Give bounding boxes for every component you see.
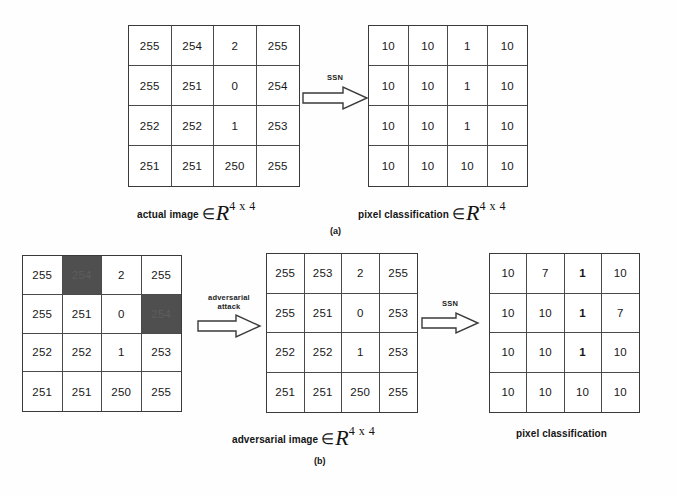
caption-a-pixel-classification: pixel classification ∈ R 4 x 4 <box>358 200 506 222</box>
matrix-cell-r3-c4: 253 <box>257 106 300 146</box>
caption-b-pixel-classification: pixel classification <box>516 428 607 439</box>
caption-a-right-symbol: R <box>466 202 479 224</box>
matrix-cell-r3-c4: 253 <box>380 333 418 373</box>
matrix-cell-r3-c4: 10 <box>602 333 639 373</box>
matrix-cell-r1-c1: 10 <box>490 254 527 294</box>
arrow-block-b-adversarial-attack: adversarial attack <box>190 294 268 339</box>
matrix-cell-r3-c1: 10 <box>490 333 527 373</box>
matrix-cell-r2-c2: 10 <box>527 294 564 334</box>
matrix-cell-r1-c2: 254 <box>172 26 215 66</box>
matrix-cell-r1-c1: 255 <box>23 256 63 295</box>
matrix-cell-r4-c4: 255 <box>257 146 300 186</box>
matrix-cell-r2-c4: 7 <box>602 294 639 334</box>
figure-page: 2552542255255251025425225212532512512502… <box>0 0 676 495</box>
arrow-right-icon <box>301 85 369 111</box>
subfigure-label-b: (b) <box>314 456 326 466</box>
matrix-cell-r1-c1: 10 <box>369 26 409 66</box>
matrix-cell-r2-c1: 10 <box>490 294 527 334</box>
caption-b-middle-superscript: 4 x 4 <box>349 424 376 439</box>
caption-a-left-superscript: 4 x 4 <box>229 199 256 214</box>
matrix-cell-r4-c4: 255 <box>142 372 182 411</box>
matrix-cell-r2-c1: 10 <box>369 66 409 106</box>
matrix-cell-r3-c2: 252 <box>63 334 103 373</box>
matrix-cell-r3-c4: 10 <box>488 106 528 146</box>
element-of-icon: ∈ <box>449 206 466 221</box>
arrow-block-b-ssn: SSN <box>418 300 482 335</box>
matrix-cell-r3-c2: 10 <box>409 106 449 146</box>
matrix-cell-r1-c2: 7 <box>527 254 564 294</box>
caption-a-left-symbol: R <box>216 202 229 224</box>
matrix-cell-r1-c2: 254 <box>63 256 103 295</box>
matrix-cell-r3-c1: 252 <box>267 333 305 373</box>
arrow-right-icon <box>420 311 480 335</box>
subfigure-label-a: (a) <box>330 226 341 236</box>
matrix-b-pixel-classification: 107110101017101011010101010 <box>489 253 640 413</box>
matrix-b-original-with-perturbation: 2552542255255251025425225212532512512502… <box>22 255 182 412</box>
matrix-cell-r2-c3: 0 <box>342 294 380 334</box>
matrix-cell-r2-c3: 1 <box>448 66 488 106</box>
matrix-cell-r3-c3: 1 <box>342 333 380 373</box>
matrix-cell-r1-c4: 255 <box>257 26 300 66</box>
matrix-cell-r3-c3: 1 <box>448 106 488 146</box>
matrix-cell-r4-c2: 251 <box>63 372 103 411</box>
matrix-cell-r4-c3: 10 <box>565 373 602 413</box>
matrix-a-pixel-classification: 10101101010110101011010101010 <box>368 25 528 187</box>
matrix-cell-r2-c4: 10 <box>488 66 528 106</box>
arrow-label-ssn: SSN <box>300 74 370 83</box>
matrix-cell-r1-c4: 255 <box>142 256 182 295</box>
arrow-label-ssn: SSN <box>418 300 482 309</box>
matrix-cell-r2-c2: 10 <box>409 66 449 106</box>
matrix-cell-r2-c2: 251 <box>172 66 215 106</box>
matrix-cell-r2-c1: 255 <box>23 295 63 334</box>
matrix-cell-r4-c1: 10 <box>490 373 527 413</box>
matrix-cell-r1-c4: 10 <box>488 26 528 66</box>
arrow-block-a-ssn: SSN <box>300 74 370 111</box>
caption-a-actual-image: actual image ∈ R 4 x 4 <box>137 200 256 222</box>
arrow-label-adversarial-attack: adversarial attack <box>190 294 268 311</box>
matrix-cell-r4-c3: 10 <box>448 146 488 186</box>
matrix-cell-r3-c1: 252 <box>23 334 63 373</box>
arrow-label-line2: attack <box>218 302 241 311</box>
matrix-cell-r2-c4: 253 <box>380 294 418 334</box>
caption-b-right-text: pixel classification <box>516 428 607 439</box>
arrow-right-icon <box>196 313 262 339</box>
matrix-cell-r4-c1: 251 <box>23 372 63 411</box>
matrix-cell-r3-c4: 253 <box>142 334 182 373</box>
element-of-icon: ∈ <box>199 206 216 221</box>
caption-a-right-superscript: 4 x 4 <box>479 199 506 214</box>
matrix-cell-r2-c4: 254 <box>257 66 300 106</box>
matrix-cell-r1-c4: 10 <box>602 254 639 294</box>
matrix-cell-r3-c2: 252 <box>172 106 215 146</box>
matrix-cell-r4-c4: 10 <box>602 373 639 413</box>
matrix-a-actual-image: 2552542255255251025425225212532512512502… <box>128 25 300 187</box>
matrix-cell-r1-c4: 255 <box>380 254 418 294</box>
matrix-cell-r3-c3: 1 <box>565 333 602 373</box>
matrix-cell-r1-c3: 1 <box>448 26 488 66</box>
matrix-cell-r4-c2: 251 <box>172 146 215 186</box>
matrix-cell-r3-c1: 10 <box>369 106 409 146</box>
matrix-cell-r3-c3: 1 <box>214 106 257 146</box>
matrix-b-adversarial-image: 2552532255255251025325225212532512512502… <box>266 253 418 413</box>
caption-b-middle-symbol: R <box>335 427 348 449</box>
matrix-cell-r4-c3: 250 <box>102 372 142 411</box>
matrix-cell-r4-c3: 250 <box>342 373 380 413</box>
caption-b-middle-text: adversarial image <box>232 434 318 445</box>
matrix-cell-r4-c1: 10 <box>369 146 409 186</box>
matrix-cell-r2-c4: 254 <box>142 295 182 334</box>
matrix-cell-r4-c3: 250 <box>214 146 257 186</box>
matrix-cell-r1-c3: 1 <box>565 254 602 294</box>
matrix-cell-r2-c1: 255 <box>267 294 305 334</box>
caption-b-adversarial-image: adversarial image ∈ R 4 x 4 <box>232 425 375 447</box>
matrix-cell-r4-c4: 10 <box>488 146 528 186</box>
matrix-cell-r4-c4: 255 <box>380 373 418 413</box>
matrix-cell-r2-c3: 0 <box>102 295 142 334</box>
matrix-cell-r1-c3: 2 <box>214 26 257 66</box>
matrix-cell-r3-c2: 10 <box>527 333 564 373</box>
matrix-cell-r4-c2: 10 <box>527 373 564 413</box>
matrix-cell-r4-c2: 10 <box>409 146 449 186</box>
matrix-cell-r2-c2: 251 <box>305 294 343 334</box>
matrix-cell-r1-c3: 2 <box>342 254 380 294</box>
matrix-cell-r3-c1: 252 <box>129 106 172 146</box>
matrix-cell-r2-c2: 251 <box>63 295 103 334</box>
caption-a-right-text: pixel classification <box>358 209 449 220</box>
